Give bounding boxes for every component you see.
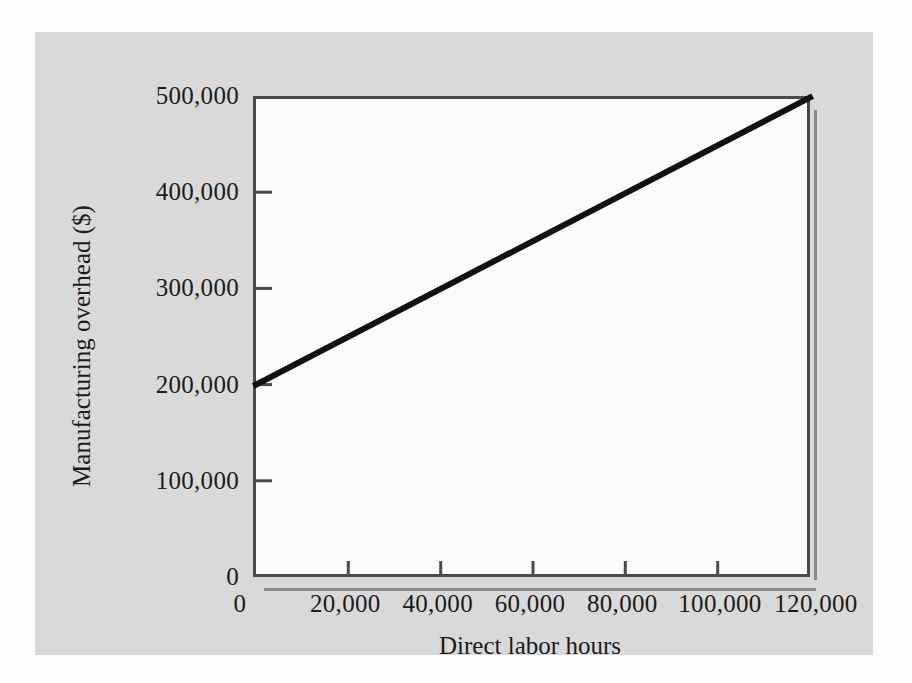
plot-frame-shadow-right — [814, 110, 817, 580]
plot-canvas — [256, 96, 810, 577]
y-tick-label-500000: 500,000 — [156, 82, 239, 110]
y-tick-label-300000: 300,000 — [156, 274, 239, 302]
y-tick-label-400000: 400,000 — [156, 178, 239, 206]
y-tick-label-200000: 200,000 — [156, 371, 239, 399]
x-axis-ticks — [348, 561, 717, 577]
y-axis-title: Manufacturing overhead ($) — [68, 186, 96, 506]
x-axis-tick-labels: 0 20,000 40,000 60,000 80,000 100,000 12… — [253, 590, 807, 630]
x-tick-label-100000: 100,000 — [678, 590, 761, 618]
x-tick-label-80000: 80,000 — [587, 590, 658, 618]
x-tick-label-20000: 20,000 — [310, 590, 381, 618]
x-tick-label-60000: 60,000 — [495, 590, 566, 618]
figure-panel: 0 100,000 200,000 300,000 400,000 500,00… — [35, 32, 873, 655]
plot-frame — [256, 96, 810, 577]
cost-line-series — [256, 98, 810, 385]
x-tick-label-40000: 40,000 — [402, 590, 473, 618]
y-tick-label-100000: 100,000 — [156, 467, 239, 495]
y-axis-ticks — [256, 98, 272, 481]
y-axis-tick-labels: 0 100,000 200,000 300,000 400,000 500,00… — [35, 96, 239, 577]
x-tick-label-120000: 120,000 — [774, 590, 857, 618]
y-tick-label-0: 0 — [226, 563, 239, 591]
plot-area — [253, 96, 807, 577]
chart-page: 0 100,000 200,000 300,000 400,000 500,00… — [0, 0, 912, 683]
x-tick-label-0: 0 — [234, 590, 247, 618]
x-axis-title: Direct labor hours — [253, 632, 807, 660]
